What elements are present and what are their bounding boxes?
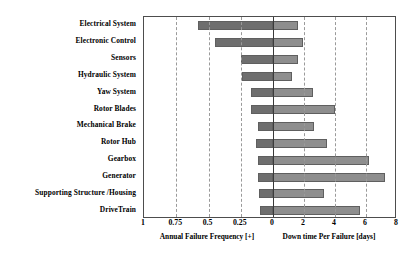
x-tick-label-left: 0.5	[203, 219, 213, 227]
bar-row	[144, 118, 395, 135]
category-label: DriveTrain	[0, 206, 136, 213]
bar-failure-frequency	[241, 55, 273, 64]
bar-failure-frequency	[258, 122, 273, 131]
category-label: Supporting Structure /Housing	[0, 189, 136, 196]
bar-failure-frequency	[251, 105, 273, 114]
bar-row	[144, 68, 395, 85]
x-tick-label-right: 6	[363, 219, 367, 227]
bar-failure-frequency	[260, 206, 273, 215]
bar-failure-frequency	[215, 38, 273, 47]
bar-row	[144, 17, 395, 34]
zero-axis-line	[273, 17, 274, 217]
plot-area	[143, 16, 396, 218]
bar-failure-frequency	[258, 156, 273, 165]
bar-failure-frequency	[256, 139, 273, 148]
bar-downtime	[273, 72, 292, 81]
x-tick-label-right: 8	[394, 219, 398, 227]
bar-downtime	[273, 55, 298, 64]
category-label: Generator	[0, 172, 136, 179]
x-tick-label-left: 0.25	[233, 219, 247, 227]
category-label: Mechanical Brake	[0, 121, 136, 128]
category-label: Gearbox	[0, 155, 136, 162]
category-label: Electrical System	[0, 20, 136, 27]
gridline	[176, 17, 177, 217]
bar-downtime	[273, 206, 360, 215]
category-label: Rotor Hub	[0, 138, 136, 145]
bar-row	[144, 135, 395, 152]
bar-downtime	[273, 88, 313, 97]
bar-row	[144, 185, 395, 202]
bar-row	[144, 101, 395, 118]
category-label: Sensors	[0, 54, 136, 61]
bar-downtime	[273, 173, 385, 182]
gridline	[366, 17, 367, 217]
x-tick-label-left: 1	[141, 219, 145, 227]
category-label: Rotor Blades	[0, 105, 136, 112]
x-axis-tick-labels: 10.750.50.2502468	[143, 219, 396, 231]
gridline	[209, 17, 210, 217]
x-tick-label-right: 4	[332, 219, 336, 227]
bar-row	[144, 84, 395, 101]
gridline	[304, 17, 305, 217]
axis-title-left: Annual Failure Frequency [+]	[160, 233, 254, 240]
x-tick-label-right: 2	[301, 219, 305, 227]
bar-downtime	[273, 122, 314, 131]
bar-failure-frequency	[259, 189, 273, 198]
bar-downtime	[273, 156, 369, 165]
gridline	[335, 17, 336, 217]
category-label: Hydraulic System	[0, 71, 136, 78]
bar-downtime	[273, 38, 303, 47]
axis-title-right: Down time Per Failure [days]	[283, 233, 376, 240]
category-label-axis: Electrical SystemElectronic ControlSenso…	[0, 16, 140, 218]
x-tick-label-left: 0.75	[168, 219, 182, 227]
category-label: Electronic Control	[0, 37, 136, 44]
bar-row	[144, 34, 395, 51]
bar-row	[144, 51, 395, 68]
category-label: Yaw System	[0, 88, 136, 95]
axis-titles: Annual Failure Frequency [+] Down time P…	[143, 233, 396, 247]
butterfly-chart: Electrical SystemElectronic ControlSenso…	[0, 0, 413, 258]
bar-row	[144, 169, 395, 186]
bar-row	[144, 152, 395, 169]
bar-downtime	[273, 139, 327, 148]
x-tick-label-left: 0	[270, 219, 274, 227]
bar-failure-frequency	[258, 173, 273, 182]
bar-failure-frequency	[242, 72, 273, 81]
bar-row	[144, 202, 395, 219]
bar-downtime	[273, 189, 324, 198]
gridline	[241, 17, 242, 217]
bar-failure-frequency	[251, 88, 273, 97]
bar-downtime	[273, 21, 298, 30]
